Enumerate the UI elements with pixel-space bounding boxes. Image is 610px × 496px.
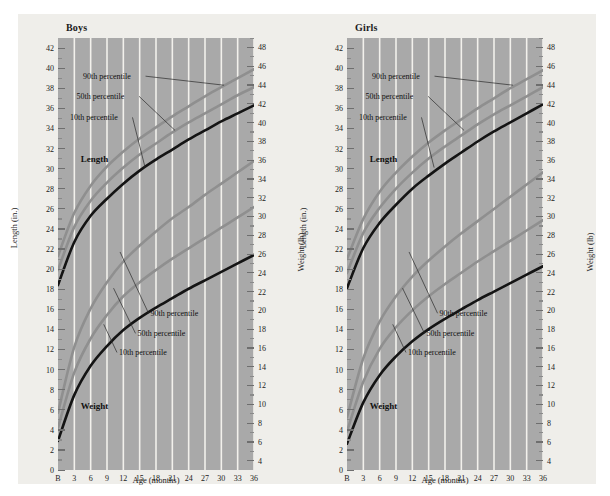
tick-mark-right (539, 263, 543, 264)
tick-mark-right (247, 216, 254, 217)
figure-page: Boys Length (in.) Weight (lb) Age (month… (0, 0, 610, 496)
tick-mark-right (536, 404, 543, 405)
tick-mark-left (58, 118, 62, 119)
y-tick-label-right: 6 (258, 437, 262, 446)
tick-mark-left (347, 349, 354, 350)
tick-mark-right (539, 188, 543, 189)
tick-mark-right (536, 272, 543, 273)
tick-mark-left (58, 359, 62, 360)
y-tick-label-left: 2 (339, 445, 343, 454)
x-tick-label: 21 (168, 474, 176, 483)
y-tick-label-left: 24 (46, 224, 54, 233)
tick-mark-left (347, 248, 354, 249)
y-tick-label-left: 22 (46, 244, 54, 253)
tick-mark-right (536, 347, 543, 348)
y-tick-label-left: 26 (46, 204, 54, 213)
tick-mark-right (539, 225, 543, 226)
y-tick-label-right: 22 (258, 287, 266, 296)
y-tick-label-left: 32 (46, 144, 54, 153)
y-tick-label-left: 38 (335, 84, 343, 93)
tick-mark-right (536, 235, 543, 236)
y-tick-label-left: 20 (46, 265, 54, 274)
tick-mark-left (347, 58, 351, 59)
tick-mark-left (58, 289, 65, 290)
tick-mark-left (347, 439, 351, 440)
y-tick-label-left: 30 (335, 164, 343, 173)
tick-mark-left (58, 269, 65, 270)
y-tick-label-left: 0 (339, 466, 343, 475)
tick-mark-left (347, 279, 351, 280)
y-tick-label-right: 8 (547, 419, 551, 428)
tick-mark-right (536, 441, 543, 442)
tick-mark-left (58, 449, 65, 450)
tick-mark-right (539, 451, 543, 452)
tick-mark-left (347, 218, 351, 219)
y-tick-label-left: 12 (335, 345, 343, 354)
tick-mark-right (539, 113, 543, 114)
y-tick-label-left: 14 (46, 325, 54, 334)
tick-mark-left (347, 88, 354, 89)
tick-mark-right (536, 122, 543, 123)
y-tick-label-right: 46 (258, 62, 266, 71)
y-tick-label-left: 2 (50, 445, 54, 454)
tick-mark-right (247, 141, 254, 142)
tick-mark-left (58, 108, 65, 109)
y-tick-label-right: 28 (547, 231, 555, 240)
y-tick-label-left: 34 (46, 124, 54, 133)
panel-title-girls: Girls (355, 22, 378, 33)
y-tick-label-right: 24 (258, 268, 266, 277)
y-tick-label-right: 44 (547, 80, 555, 89)
tick-mark-right (536, 329, 543, 330)
x-tick-label: 24 (185, 474, 193, 483)
x-tick-label: 9 (105, 474, 109, 483)
tick-mark-right (539, 244, 543, 245)
y-tick-label-left: 42 (46, 44, 54, 53)
tick-mark-right (247, 47, 254, 48)
y-tick-label-right: 32 (258, 193, 266, 202)
tick-mark-left (58, 459, 62, 460)
tick-mark-right (250, 338, 254, 339)
y-tick-label-right: 14 (258, 362, 266, 371)
tick-mark-right (539, 300, 543, 301)
tick-mark-left (58, 218, 62, 219)
x-tick-label: 30 (506, 474, 514, 483)
tick-mark-left (347, 299, 351, 300)
tick-mark-right (539, 131, 543, 132)
tick-mark-left (347, 48, 354, 49)
y-tick-label-left: 18 (335, 285, 343, 294)
y-tick-label-right: 16 (258, 343, 266, 352)
tick-mark-left (347, 138, 351, 139)
tick-mark-right (539, 319, 543, 320)
tick-mark-left (347, 309, 354, 310)
y-tick-label-right: 4 (547, 456, 551, 465)
tick-mark-right (247, 291, 254, 292)
y-tick-label-right: 28 (258, 231, 266, 240)
tick-mark-left (347, 459, 351, 460)
percentile-annotation: 10th percentile (359, 113, 407, 122)
tick-mark-right (247, 84, 254, 85)
tick-mark-right (250, 188, 254, 189)
tick-mark-left (58, 399, 62, 400)
tick-mark-left (58, 319, 62, 320)
percentile-annotation: 50th percentile (137, 329, 185, 338)
tick-mark-right (250, 394, 254, 395)
tick-mark-left (347, 168, 354, 169)
tick-mark-right (247, 197, 254, 198)
tick-mark-right (250, 282, 254, 283)
y-tick-label-right: 30 (547, 212, 555, 221)
tick-mark-right (247, 160, 254, 161)
tick-mark-right (536, 103, 543, 104)
panel-title-boys: Boys (66, 22, 87, 33)
tick-mark-right (539, 75, 543, 76)
tick-mark-left (58, 48, 65, 49)
x-tick-label: 18 (441, 474, 449, 483)
y-tick-label-right: 12 (258, 381, 266, 390)
y-tick-label-left: 6 (50, 405, 54, 414)
tick-mark-left (58, 369, 65, 370)
tick-mark-left (347, 419, 351, 420)
tick-mark-right (247, 310, 254, 311)
tick-mark-right (539, 150, 543, 151)
tick-mark-left (58, 148, 65, 149)
tick-mark-left (347, 148, 354, 149)
x-tick-label: 33 (234, 474, 242, 483)
